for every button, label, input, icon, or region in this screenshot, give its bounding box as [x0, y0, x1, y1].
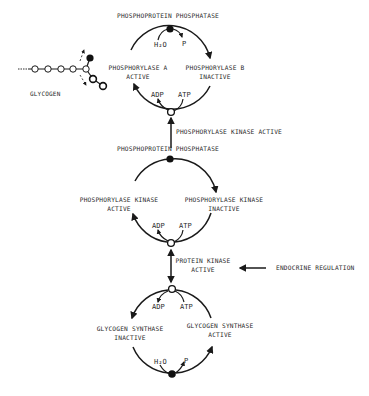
phosphorylase-kinase-inactive-label: Phosphorylase Kinase	[185, 196, 264, 203]
glucose-unit-icon	[100, 83, 107, 90]
phosphorylation-arc	[134, 84, 210, 109]
atp-label: ATP	[180, 303, 193, 311]
glucose-unit-icon	[45, 66, 51, 72]
glycogen-regulation-diagram: Glycogen Phosphoprotein phosphatase H₂O …	[0, 0, 369, 396]
cleavage-arrow-icon	[80, 75, 86, 85]
phosphorylase-kinase-active-state: active	[107, 205, 131, 212]
p-label: P	[182, 40, 186, 48]
protein-kinase-state: active	[191, 266, 215, 273]
glucose-unit-icon	[58, 66, 64, 72]
phosphorylase-a-state: active	[126, 73, 150, 80]
glycogen-synthase-inactive-label: Glycogen synthase	[97, 325, 164, 332]
dephosphorylation-arc-right	[170, 159, 216, 192]
dephosphorylation-arc-right	[176, 347, 212, 373]
h2o-label: H₂O	[154, 358, 167, 366]
phosphorylase-b-label: Phosphorylase b	[186, 64, 245, 71]
phosphatase-node-icon	[166, 25, 173, 32]
adp-out-arrow	[158, 230, 168, 241]
glycogen-synthase-inactive-state: inactive	[114, 334, 145, 341]
atp-label: ATP	[178, 91, 191, 99]
phosphorylase-kinase-active-label: Phosphorylase Kinase active	[176, 128, 282, 135]
phosphorylase-kinase-inactive-state: inactive	[208, 205, 239, 212]
glycogen-label: Glycogen	[30, 90, 61, 97]
phosphorylase-a-label: Phosphorylase a	[109, 64, 168, 71]
kinase-node-icon	[168, 109, 175, 116]
branch-glucose-icon	[83, 66, 89, 72]
phosphatase-node-icon	[168, 370, 176, 378]
phosphorylase-kinase-active-label-left: Phosphorylase Kinase	[80, 196, 159, 203]
adp-label: ADP	[152, 222, 165, 230]
kinase-node-icon	[168, 240, 175, 247]
middle-phosphatase-label: Phosphoprotein phosphatase	[117, 145, 219, 152]
h2o-label: H₂O	[154, 41, 167, 49]
glycogen-chain	[18, 50, 106, 89]
glycogen-synthase-active-label: Glycogen synthase	[187, 322, 254, 329]
phosphate-out-arrow	[173, 29, 182, 37]
water-in-arrow	[158, 29, 168, 40]
endocrine-regulation-label: Endocrine regulation	[276, 264, 355, 271]
dephosphorylation-arc-left	[135, 159, 170, 181]
adp-label: ADP	[151, 91, 164, 99]
kinase-node-icon	[169, 286, 176, 293]
protein-kinase-label: Protein Kinase	[176, 257, 231, 264]
glucose-unit-icon	[70, 66, 76, 72]
phosphatase-node-icon	[166, 155, 173, 162]
glycogen-synthase-active-state: active	[208, 331, 232, 338]
glucose-unit-icon	[90, 76, 97, 83]
adp-label: ADP	[152, 303, 165, 311]
cleaved-glucose-icon	[86, 54, 93, 61]
atp-label: ATP	[179, 222, 192, 230]
glucose-unit-icon	[32, 66, 38, 72]
phosphorylase-b-state: inactive	[199, 73, 230, 80]
top-phosphatase-label: Phosphoprotein phosphatase	[117, 12, 219, 19]
cleavage-arrow-icon	[80, 50, 84, 61]
p-label: P	[184, 357, 188, 365]
atp-in-arrow	[175, 291, 184, 302]
adp-out-arrow	[158, 291, 168, 302]
